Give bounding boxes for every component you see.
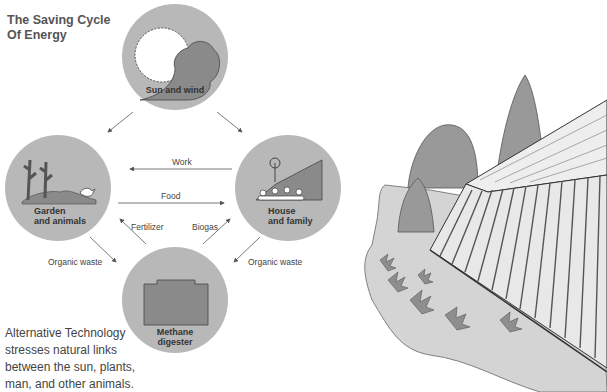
svg-text:House: House	[268, 206, 296, 216]
svg-text:and animals: and animals	[34, 216, 86, 226]
svg-text:digester: digester	[157, 337, 193, 347]
svg-text:and family: and family	[268, 216, 313, 226]
flow-biogas-label: Biogas	[192, 222, 218, 232]
digester-tank-icon	[144, 280, 208, 325]
node-methane-digester: Methane digester	[122, 247, 228, 353]
flow-waste-left-label: Organic waste	[48, 257, 103, 267]
flow-fertilizer-label: Fertilizer	[131, 222, 164, 232]
svg-text:Sun and wind: Sun and wind	[146, 85, 205, 95]
flow-food-label: Food	[161, 191, 181, 201]
node-sun-and-wind: Sun and wind	[122, 4, 228, 110]
caption-line-4: man, and other animals.	[5, 376, 135, 392]
caption: Alternative Technology stresses natural …	[5, 325, 135, 392]
greenhouse-illustration	[365, 75, 607, 392]
caption-line-1: Alternative Technology	[5, 325, 135, 342]
svg-text:Methane: Methane	[157, 327, 194, 337]
node-garden-and-animals: Garden and animals	[5, 135, 111, 241]
flow-work-label: Work	[172, 157, 192, 167]
flow-arrows	[90, 112, 260, 262]
caption-line-2: stresses natural links	[5, 342, 135, 359]
flow-waste-right-label: Organic waste	[248, 257, 303, 267]
caption-line-3: between the sun, plants,	[5, 359, 135, 376]
svg-text:Garden: Garden	[34, 206, 66, 216]
node-house-and-family: House and family	[235, 135, 341, 241]
